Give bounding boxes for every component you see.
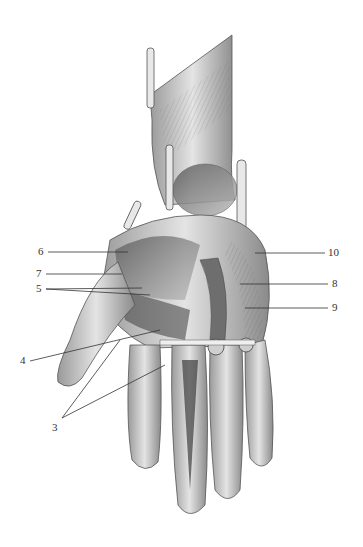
label-5: 5 <box>36 283 42 294</box>
fingers <box>128 338 273 514</box>
label-4: 4 <box>20 355 26 366</box>
label-8: 8 <box>332 278 338 289</box>
label-3: 3 <box>52 422 58 433</box>
hand-anatomy-illustration <box>0 0 363 547</box>
forearm <box>123 35 246 230</box>
label-6: 6 <box>38 246 44 257</box>
label-9: 9 <box>332 302 338 313</box>
label-10: 10 <box>328 247 339 258</box>
label-7: 7 <box>36 268 42 279</box>
